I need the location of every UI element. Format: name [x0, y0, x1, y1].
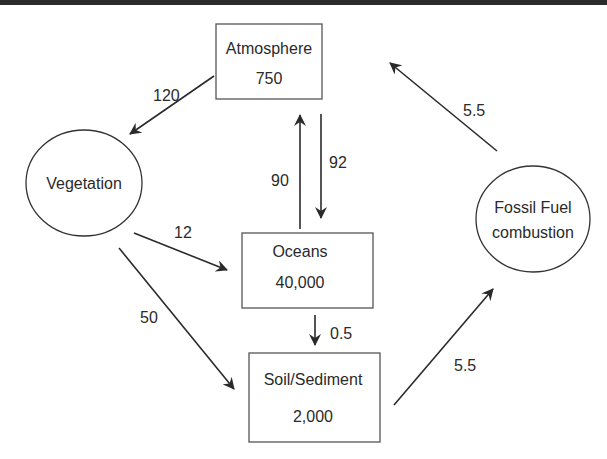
- soil-sediment-box: [249, 353, 380, 442]
- flow-label-fossil-to-atm: 5.5: [463, 102, 485, 119]
- flow-label-vegetation-to-soil: 50: [140, 309, 158, 326]
- vegetation-label: Vegetation: [46, 175, 122, 192]
- fossil-fuel-ellipse: [476, 166, 590, 272]
- node-fossil-fuel: Fossil Fuel combustion: [476, 166, 590, 272]
- atmosphere-label: Atmosphere: [226, 40, 312, 57]
- carbon-cycle-diagram: Atmosphere 750 Oceans 40,000 Soil/Sedime…: [0, 0, 607, 459]
- node-soil-sediment: Soil/Sediment 2,000: [249, 353, 380, 442]
- atmosphere-box: [216, 24, 322, 99]
- arrow-atm-to-vegetation: [130, 76, 214, 134]
- node-oceans: Oceans 40,000: [242, 233, 373, 308]
- soil-sediment-value: 2,000: [293, 408, 333, 425]
- oceans-label: Oceans: [272, 243, 327, 260]
- node-atmosphere: Atmosphere 750: [216, 24, 322, 99]
- flow-label-soil-to-fossil: 5.5: [454, 357, 476, 374]
- flow-label-vegetation-to-oceans: 12: [174, 224, 192, 241]
- fossil-fuel-label-line2: combustion: [492, 224, 574, 241]
- flow-label-oceans-to-atm: 90: [271, 172, 289, 189]
- flow-label-atm-to-vegetation: 120: [153, 87, 180, 104]
- flow-label-atm-to-oceans: 92: [329, 154, 347, 171]
- arrow-soil-to-fossil: [394, 289, 493, 405]
- arrow-vegetation-to-soil: [119, 248, 234, 389]
- flow-label-oceans-to-soil: 0.5: [330, 325, 352, 342]
- node-vegetation: Vegetation: [26, 130, 142, 236]
- soil-sediment-label: Soil/Sediment: [264, 371, 363, 388]
- fossil-fuel-label-line1: Fossil Fuel: [494, 199, 571, 216]
- atmosphere-value: 750: [256, 70, 283, 87]
- oceans-value: 40,000: [276, 274, 325, 291]
